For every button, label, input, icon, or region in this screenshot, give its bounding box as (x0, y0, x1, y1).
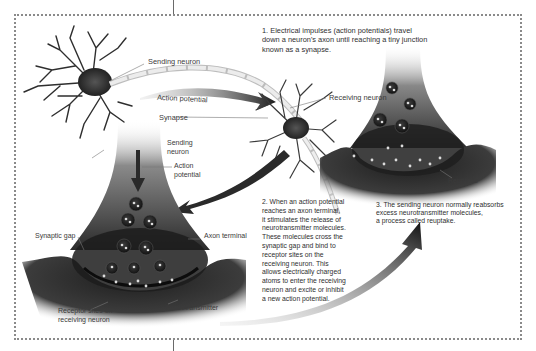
label-synapse: Synapse (159, 113, 188, 123)
label-receptor-sites: Receptor sites on receiving neuron (58, 306, 112, 324)
label-sending-neuron-detail: Sending neuron (167, 138, 193, 156)
label-neurotransmitter: Neurotransmitter (166, 303, 218, 313)
label-receiving-neuron: Receiving neuron (329, 93, 387, 103)
step-2-description: 2. When an action potential reaches an a… (262, 198, 346, 304)
label-action-potential-detail: Action potential (174, 161, 200, 179)
step-3-description: 3. The sending neuron normally reabsorbs… (376, 201, 504, 226)
label-synaptic-gap: Synaptic gap (35, 231, 75, 241)
label-reuptake: Reuptake (448, 176, 478, 186)
step-1-description: 1. Electrical impulses (action potential… (262, 26, 427, 54)
label-sending-neuron: Sending neuron (148, 57, 200, 67)
label-axon-terminal: Axon terminal (204, 231, 247, 241)
